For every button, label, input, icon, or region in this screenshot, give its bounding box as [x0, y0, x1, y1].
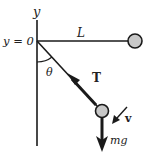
- tension-arrowhead-icon: [67, 73, 80, 85]
- y-zero-label: y = 0: [2, 34, 34, 48]
- tension-label: T: [92, 71, 101, 85]
- pendulum-diagram: y y = 0 L T θ mg v: [0, 0, 151, 158]
- bob-swinging: [96, 105, 109, 118]
- bob-horizontal: [128, 34, 142, 48]
- velocity-label: v: [124, 112, 132, 125]
- angle-arc: [37, 57, 52, 62]
- y-axis-label: y: [32, 4, 41, 19]
- angle-label: θ: [46, 66, 53, 79]
- length-label: L: [76, 26, 85, 40]
- weight-label: mg: [110, 134, 127, 147]
